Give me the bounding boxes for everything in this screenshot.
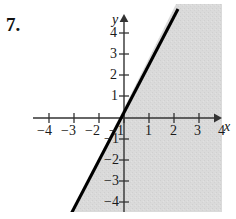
y-tick-label-3: 3	[110, 47, 117, 61]
y-tick-label-1: 1	[111, 89, 118, 103]
y-tick-label--3: −3	[104, 174, 119, 188]
x-tick-label-3: 3	[194, 124, 201, 138]
x-axis-label: x	[224, 120, 230, 134]
x-tick-label--3: −3	[61, 124, 76, 138]
figure-container: 7.	[0, 0, 236, 219]
y-tick-label--2: −2	[104, 153, 119, 167]
x-tick-label--2: −2	[85, 124, 100, 138]
shaded-solution-region	[72, 4, 222, 212]
y-axis-label: y	[112, 13, 118, 27]
x-tick-label--4: −4	[37, 124, 52, 138]
x-tick-label-2: 2	[170, 124, 177, 138]
y-tick-label-4: 4	[110, 26, 117, 40]
y-tick-label--4: −4	[104, 195, 119, 209]
y-tick-label-2: 2	[110, 68, 117, 82]
x-tick-label-1: 1	[145, 124, 152, 138]
y-tick-label--1: −1	[104, 132, 119, 146]
